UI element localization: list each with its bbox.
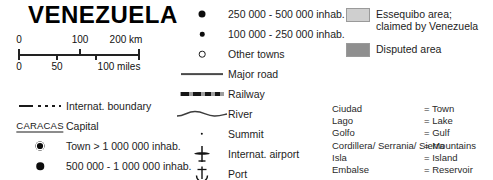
swatch-dark-gray-icon	[340, 43, 376, 56]
scale-tick-km-100	[79, 49, 81, 55]
airplane-icon	[176, 144, 228, 164]
legend-item-major-road: Major road	[176, 64, 332, 84]
legend-item-railway: Railway	[176, 84, 332, 104]
scale-km-tick-200: 200 km	[110, 34, 143, 46]
capital-sample-text: CARACAS	[16, 120, 63, 133]
legend-item-summit: Summit	[176, 124, 332, 144]
glossary-term: Embalse	[332, 164, 424, 176]
legend-column-middle: 250 000 - 500 000 inhab. 100 000 - 250 0…	[176, 4, 332, 180]
glossary-term: Golfo	[332, 127, 424, 139]
glossary-term: Isla	[332, 152, 424, 164]
legend-item-river: River	[176, 104, 332, 124]
river-wavy-line-icon	[176, 104, 228, 124]
town-circle-open-icon	[176, 44, 228, 64]
glossary-term: Cordillera/ Serrania/ Sierra	[332, 140, 424, 152]
glossary-definition: = Reservoir	[424, 164, 473, 176]
page-title: VENEZUELA	[28, 2, 178, 28]
glossary-term: Lago	[332, 115, 424, 127]
legend-label: 500 000 - 1 000 000 inhab.	[66, 156, 192, 176]
major-road-line-icon	[176, 64, 228, 84]
legend-item-international-boundary: Internat. boundary	[14, 96, 174, 116]
legend-item-capital: CARACAS Capital	[14, 116, 174, 136]
legend-item-town-250k-500k: 250 000 - 500 000 inhab.	[176, 4, 332, 24]
anchor-icon	[176, 164, 228, 180]
legend-label: Port	[228, 164, 247, 180]
swatch-light-gray-icon	[340, 8, 376, 21]
town-ring-dot-icon	[14, 136, 66, 156]
legend-label-line-1: Essequibo area;	[376, 8, 478, 20]
legend-label: 250 000 - 500 000 inhab.	[228, 4, 345, 24]
legend-item-town-500k-1m: 500 000 - 1 000 000 inhab.	[14, 156, 174, 176]
legend-item-disputed-area: Disputed area	[340, 43, 490, 56]
scale-miles-tick-100: 100 miles	[98, 61, 141, 73]
boundary-dash-dot-icon	[14, 96, 66, 116]
legend-item-international-airport: Internat. airport	[176, 144, 332, 164]
glossary-row: Ciudad = Town	[332, 103, 476, 115]
railway-hatched-line-icon	[176, 84, 228, 104]
legend-item-town-over-1m: Town > 1 000 000 inhab.	[14, 136, 174, 156]
legend-item-port: Port	[176, 164, 332, 180]
legend-label: Internat. boundary	[66, 96, 151, 116]
capital-label-sample: CARACAS	[14, 116, 66, 136]
scale-km-labels: 0 100 200 km	[14, 34, 154, 46]
glossary-row: Embalse = Reservoir	[332, 164, 476, 176]
glossary-definition: = Island	[424, 152, 458, 164]
legend-label: Town > 1 000 000 inhab.	[66, 136, 181, 156]
legend-label: Other towns	[228, 44, 285, 64]
glossary-definition: = Mountains	[424, 140, 476, 152]
scale-rule	[18, 49, 140, 60]
scale-km-tick-0: 0	[16, 34, 22, 46]
town-dot-md-icon	[176, 24, 228, 44]
scale-tick-end	[138, 49, 140, 60]
glossary-term: Ciudad	[332, 103, 424, 115]
summit-dot-icon	[176, 124, 228, 144]
glossary-row: Cordillera/ Serrania/ Sierra = Mountains	[332, 140, 476, 152]
legend-label: Essequibo area; claimed by Venezuela	[376, 8, 478, 32]
scale-miles-tick-0: 0	[16, 61, 22, 73]
town-dot-xl-icon	[176, 4, 228, 24]
scale-km-tick-100: 100	[72, 34, 89, 46]
scale-tick-miles-100	[95, 54, 97, 60]
legend-label: 100 000 - 250 000 inhab.	[228, 24, 345, 44]
legend-item-other-towns: Other towns	[176, 44, 332, 64]
legend-label-line-1: Disputed area	[376, 43, 441, 55]
legend-label: Capital	[66, 116, 99, 136]
glossary-row: Golfo = Gulf	[332, 127, 476, 139]
glossary-definition: = Gulf	[424, 127, 450, 139]
legend-item-town-100k-250k: 100 000 - 250 000 inhab.	[176, 24, 332, 44]
scale-tick-miles-50	[56, 54, 58, 60]
legend-label: Summit	[228, 124, 264, 144]
legend-column-areas: Essequibo area; claimed by Venezuela Dis…	[340, 8, 490, 56]
scale-tick-start	[18, 49, 20, 60]
legend-label: River	[228, 104, 253, 124]
map-scale-bar: 0 100 200 km 0 50 100 miles	[14, 34, 154, 74]
legend-label: Disputed area	[376, 43, 441, 55]
legend-label: Railway	[228, 84, 265, 104]
legend-label: Major road	[228, 64, 278, 84]
glossary-table: Ciudad = Town Lago = Lake Golfo = Gulf C…	[332, 103, 476, 176]
glossary-row: Isla = Island	[332, 152, 476, 164]
town-large-dot-icon	[14, 156, 66, 176]
legend-column-left: Internat. boundary CARACAS Capital Town …	[14, 96, 174, 176]
glossary-definition: = Lake	[424, 115, 453, 127]
glossary-definition: = Town	[424, 103, 454, 115]
scale-miles-labels: 0 50 100 miles	[14, 61, 154, 73]
legend-label-line-2: claimed by Venezuela	[376, 20, 478, 32]
glossary-row: Lago = Lake	[332, 115, 476, 127]
legend-label: Internat. airport	[228, 144, 299, 164]
legend-item-essequibo-area: Essequibo area; claimed by Venezuela	[340, 8, 490, 21]
scale-miles-tick-50: 50	[51, 61, 62, 73]
